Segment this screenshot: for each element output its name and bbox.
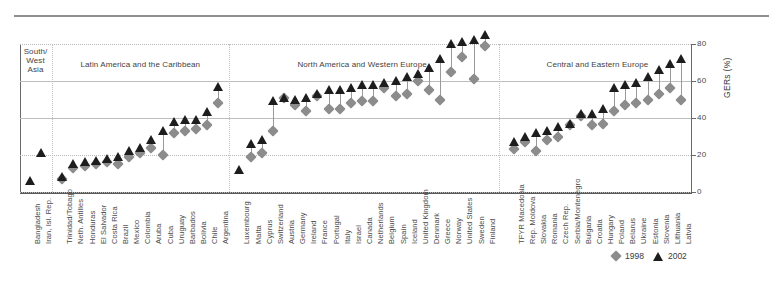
data-point-2002 — [80, 157, 90, 166]
data-point-2002 — [598, 104, 608, 113]
category-label: Trinidad/Tobago — [65, 189, 74, 244]
category-label: Germany — [298, 212, 307, 244]
data-point-2002 — [520, 132, 530, 141]
figure-top-rule — [14, 15, 769, 17]
data-point-2002 — [312, 89, 322, 98]
category-label: Slovenia — [662, 214, 671, 244]
data-point-2002 — [191, 115, 201, 124]
data-point-2002 — [268, 96, 278, 105]
category-label: Rep. Moldova — [528, 197, 537, 244]
category-label: Aruba — [154, 223, 163, 244]
category-label: TFYR Macedonia — [517, 184, 526, 244]
data-point-2002 — [587, 109, 597, 118]
category-label: Netherlands — [376, 202, 385, 244]
data-point-2002 — [234, 165, 244, 174]
data-point-2002 — [246, 139, 256, 148]
data-point-2002 — [620, 80, 630, 89]
y-tick-mark-20 — [692, 155, 696, 156]
category-label: Greece — [443, 219, 452, 244]
data-point-2002 — [290, 95, 300, 104]
triangle-marker-icon — [653, 252, 663, 261]
gridline-80 — [20, 44, 691, 46]
data-point-2002 — [631, 78, 641, 87]
y-tick-mark-80 — [692, 44, 696, 45]
category-label: Austria — [287, 220, 296, 244]
region-separator-2 — [229, 44, 231, 192]
category-label: Iceland — [410, 219, 419, 244]
data-point-2002 — [576, 109, 586, 118]
category-label: Colombia — [143, 212, 152, 244]
data-point-2002 — [202, 107, 212, 116]
data-point-2002 — [180, 115, 190, 124]
data-point-2002 — [146, 135, 156, 144]
data-point-2002 — [25, 176, 35, 185]
category-label: Belarus — [628, 218, 637, 244]
data-point-2002 — [553, 122, 563, 131]
category-label: United States — [465, 198, 474, 244]
y-axis-title: GERs (%) — [722, 57, 732, 98]
category-label: Luxembourg — [242, 201, 251, 244]
data-point-2002 — [91, 156, 101, 165]
category-label: Denmark — [432, 213, 441, 244]
legend-label-1998: 1998 — [625, 251, 644, 261]
data-point-2002 — [57, 172, 67, 181]
legend-label-2002: 2002 — [668, 251, 687, 261]
data-point-2002 — [368, 80, 378, 89]
category-label: Portugal — [332, 215, 341, 244]
category-label: Finland — [488, 219, 497, 244]
legend-item-1998: 1998 — [612, 251, 644, 261]
data-point-2002 — [158, 126, 168, 135]
data-point-2002 — [357, 80, 367, 89]
y-tick-label-80: 80 — [697, 39, 706, 48]
region-header-1: Latin America and the Caribbean — [20, 60, 260, 69]
data-point-2002 — [413, 69, 423, 78]
category-label: Honduras — [88, 211, 97, 244]
y-tick-label-20: 20 — [697, 150, 706, 159]
category-label: Costa Rica — [110, 206, 119, 244]
data-point-2002 — [113, 152, 123, 161]
data-point-2002 — [379, 78, 389, 87]
diamond-marker-icon — [610, 250, 621, 261]
data-point-2002 — [68, 159, 78, 168]
data-point-2002 — [301, 93, 311, 102]
category-label: Chile — [210, 226, 219, 244]
data-point-2002 — [257, 135, 267, 144]
data-point-2002 — [102, 154, 112, 163]
y-tick-mark-60 — [692, 81, 696, 82]
data-point-2002 — [446, 39, 456, 48]
y-tick-label-60: 60 — [697, 76, 706, 85]
category-label: Barbados — [188, 211, 197, 244]
data-point-2002 — [279, 93, 289, 102]
data-point-2002 — [335, 85, 345, 94]
region-header-2: North America and Western Europe — [242, 60, 482, 69]
data-point-2002 — [509, 137, 519, 146]
category-label: Spain — [399, 224, 408, 244]
data-point-2002 — [324, 85, 334, 94]
data-point-2002 — [469, 35, 479, 44]
data-point-2002 — [654, 65, 664, 74]
data-point-2002 — [480, 30, 490, 39]
gers-scatter-chart: 020406080 GERs (%) South/WestAsiaLatin A… — [0, 0, 783, 294]
data-point-2002 — [643, 72, 653, 81]
category-label: Bangladesh — [33, 203, 42, 244]
category-label: United Kingdom — [421, 189, 430, 244]
legend-item-2002: 2002 — [653, 251, 687, 261]
category-label: Canada — [365, 217, 374, 244]
category-label: Argentina — [221, 211, 230, 244]
category-label: Cuba — [166, 226, 175, 244]
connector-line — [440, 59, 441, 100]
connector-line — [681, 59, 682, 100]
data-point-2002 — [609, 83, 619, 92]
data-point-2002 — [213, 82, 223, 91]
category-label: Croatia — [595, 219, 604, 244]
data-point-2002 — [531, 128, 541, 137]
category-label: Estonia — [651, 218, 660, 244]
data-point-2002 — [346, 83, 356, 92]
category-label: Lithuania — [673, 213, 682, 244]
category-label: Ireland — [309, 220, 318, 244]
y-tick-mark-40 — [692, 118, 696, 119]
category-label: Latvia — [684, 223, 693, 244]
category-label: Norway — [454, 218, 463, 244]
category-label: Bulgaria — [584, 216, 593, 244]
y-tick-label-40: 40 — [697, 113, 706, 122]
